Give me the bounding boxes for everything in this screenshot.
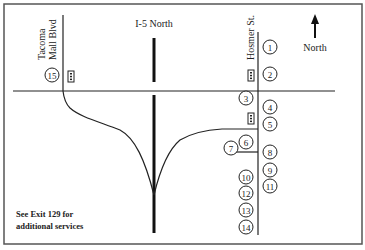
marker-number: 2 bbox=[268, 70, 273, 80]
service-marker-13[interactable]: 13 bbox=[239, 203, 253, 217]
service-marker-7[interactable]: 7 bbox=[224, 141, 238, 155]
service-marker-1[interactable]: 1 bbox=[263, 40, 277, 54]
exit-map: I-5 North Tacoma Mall Blvd Hosmer St. No… bbox=[0, 0, 365, 250]
marker-number: 5 bbox=[268, 120, 273, 130]
service-marker-9[interactable]: 9 bbox=[263, 163, 277, 177]
service-marker-15[interactable]: 15 bbox=[45, 68, 59, 82]
marker-number: 11 bbox=[266, 182, 275, 192]
north-label: North bbox=[303, 42, 326, 53]
service-marker-12[interactable]: 12 bbox=[239, 186, 253, 200]
marker-number: 4 bbox=[268, 103, 273, 113]
marker-number: 7 bbox=[229, 144, 234, 154]
highway-label: I-5 North bbox=[135, 18, 173, 29]
service-marker-4[interactable]: 4 bbox=[263, 100, 277, 114]
marker-number: 10 bbox=[242, 173, 252, 183]
marker-number: 9 bbox=[268, 166, 273, 176]
marker-number: 8 bbox=[268, 148, 273, 158]
marker-number: 3 bbox=[244, 94, 249, 104]
note-line1: See Exit 129 for bbox=[16, 209, 74, 219]
traffic-signal-icon bbox=[68, 71, 74, 82]
traffic-signal-icon bbox=[248, 113, 254, 124]
service-marker-10[interactable]: 10 bbox=[239, 170, 253, 184]
marker-number: 6 bbox=[244, 138, 249, 148]
service-marker-11[interactable]: 11 bbox=[263, 179, 277, 193]
service-marker-6[interactable]: 6 bbox=[239, 135, 253, 149]
service-marker-3[interactable]: 3 bbox=[239, 91, 253, 105]
traffic-signal-icon bbox=[248, 70, 254, 81]
service-marker-5[interactable]: 5 bbox=[263, 117, 277, 131]
service-marker-8[interactable]: 8 bbox=[263, 145, 277, 159]
marker-number: 14 bbox=[242, 223, 252, 233]
service-marker-14[interactable]: 14 bbox=[239, 220, 253, 234]
tacoma-mall-blvd-label-line2: Mall Blvd bbox=[47, 19, 58, 60]
hosmer-st-label: Hosmer St. bbox=[245, 15, 256, 60]
service-marker-2[interactable]: 2 bbox=[263, 67, 277, 81]
note-line2: additional services bbox=[16, 221, 84, 231]
marker-number: 12 bbox=[242, 189, 251, 199]
marker-number: 13 bbox=[242, 206, 252, 216]
tacoma-mall-blvd-label-line1: Tacoma bbox=[36, 28, 47, 60]
marker-number: 15 bbox=[48, 71, 58, 81]
marker-number: 1 bbox=[268, 43, 273, 53]
